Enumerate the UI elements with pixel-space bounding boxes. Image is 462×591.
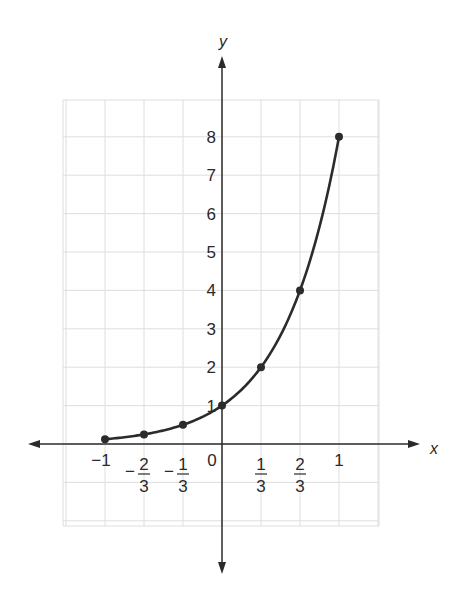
- x-axis-right-arrow-icon: [408, 440, 420, 448]
- x-tick-label: 0: [207, 451, 216, 470]
- x-tick-numerator: 1: [178, 455, 187, 474]
- data-point: [257, 363, 265, 371]
- y-tick-label: 2: [207, 358, 216, 377]
- x-tick-numerator: 2: [295, 455, 304, 474]
- x-axis-label: x: [429, 440, 439, 457]
- data-point: [335, 133, 343, 141]
- x-tick-numerator: 1: [256, 455, 265, 474]
- y-tick-label: 3: [207, 320, 216, 339]
- y-axis-up-arrow-icon: [218, 56, 226, 68]
- x-tick-denominator: 3: [256, 477, 265, 496]
- tick-labels: 12345678−123−13−013231: [91, 128, 343, 496]
- exponential-chart: 12345678−123−13−013231 x y: [0, 0, 462, 591]
- x-tick-label: −1: [91, 451, 110, 470]
- data-point: [101, 435, 109, 443]
- y-tick-label: 7: [207, 166, 216, 185]
- y-axis-label: y: [218, 33, 228, 50]
- y-tick-label: 6: [207, 205, 216, 224]
- axes: [28, 56, 420, 574]
- x-tick-minus: −: [125, 462, 135, 481]
- data-point: [140, 430, 148, 438]
- data-point: [218, 402, 226, 410]
- data-point: [179, 421, 187, 429]
- x-tick-label: 1: [334, 451, 343, 470]
- y-tick-label: 4: [207, 281, 216, 300]
- x-axis-left-arrow-icon: [28, 440, 40, 448]
- x-tick-denominator: 3: [178, 477, 187, 496]
- x-tick-denominator: 3: [295, 477, 304, 496]
- data-point: [296, 286, 304, 294]
- x-tick-numerator: 2: [139, 455, 148, 474]
- x-tick-minus: −: [164, 462, 174, 481]
- y-axis-down-arrow-icon: [218, 562, 226, 574]
- x-tick-denominator: 3: [139, 477, 148, 496]
- y-tick-label: 5: [207, 243, 216, 262]
- y-tick-label: 8: [207, 128, 216, 147]
